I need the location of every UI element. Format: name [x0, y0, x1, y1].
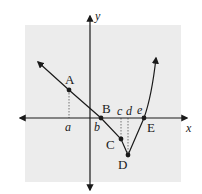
label-point-c: C [106, 137, 115, 152]
marker-e: e [137, 103, 143, 117]
point-a [67, 88, 72, 93]
label-point-a: A [65, 72, 75, 87]
marker-c: c [117, 104, 123, 118]
label-point-b: B [102, 101, 111, 116]
label-point-e: E [147, 120, 155, 135]
marker-b: b [94, 120, 100, 134]
x-axis-label: x [185, 121, 192, 135]
label-point-d: D [118, 157, 127, 172]
point-c [119, 137, 124, 142]
y-axis-label: y [94, 9, 101, 23]
marker-d: d [126, 104, 133, 118]
function-graph-diagram: A B C D E a b c d e x y [0, 0, 202, 194]
marker-a: a [65, 120, 71, 134]
